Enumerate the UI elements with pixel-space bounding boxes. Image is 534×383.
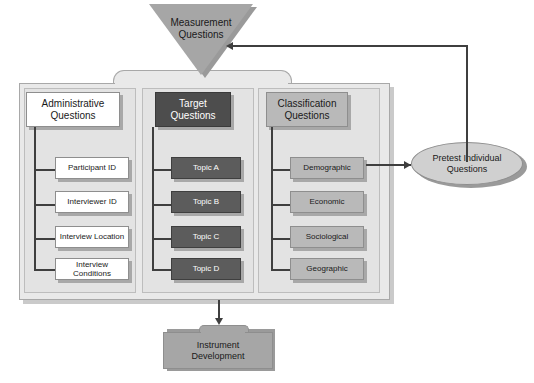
item-interview-location[interactable]: Interview Location	[55, 226, 129, 248]
item-interviewer-id-label: Interviewer ID	[67, 197, 116, 206]
header-classification-line1: Classification	[278, 98, 337, 109]
tree-branch-target-4	[152, 269, 172, 271]
header-classification-line2: Questions	[284, 110, 329, 121]
item-geographic[interactable]: Geographic	[290, 258, 364, 280]
item-sociological-label: Sociological	[306, 232, 349, 241]
diagram-canvas: Administrative Questions Participant ID …	[0, 0, 534, 383]
tree-branch-target-1	[152, 169, 172, 171]
item-topic-d-label: Topic D	[193, 264, 220, 273]
item-economic-label: Economic	[309, 197, 344, 206]
item-topic-c-label: Topic C	[193, 232, 220, 241]
item-sociological[interactable]: Sociological	[290, 226, 364, 248]
tree-trunk-target	[152, 127, 154, 270]
item-demographic[interactable]: Demographic	[290, 157, 364, 179]
item-topic-b-label: Topic B	[193, 197, 219, 206]
instrument-development-node[interactable]: Instrument Development	[163, 325, 275, 371]
item-interview-location-label: Interview Location	[60, 232, 124, 241]
instrument-folder-body: Instrument Development	[163, 332, 273, 369]
header-target-questions[interactable]: Target Questions	[155, 92, 231, 127]
header-administrative-line1: Administrative	[42, 98, 105, 109]
item-topic-d[interactable]: Topic D	[171, 258, 241, 280]
tree-branch-target-3	[152, 238, 172, 240]
measurement-questions-node[interactable]: Measurement Questions	[149, 4, 257, 78]
tree-trunk-administrative	[34, 127, 36, 270]
tree-branch-class-3	[271, 238, 291, 240]
connector-pretest-up	[466, 45, 468, 162]
item-topic-a-label: Topic A	[193, 163, 219, 172]
tree-branch-class-2	[271, 204, 291, 206]
tree-branch-target-2	[152, 204, 172, 206]
item-participant-id[interactable]: Participant ID	[55, 157, 129, 179]
header-administrative-line2: Questions	[50, 110, 95, 121]
item-geographic-label: Geographic	[306, 264, 347, 273]
item-economic[interactable]: Economic	[290, 191, 364, 213]
item-demographic-label: Demographic	[303, 163, 351, 172]
instrument-line2: Development	[191, 351, 244, 361]
measurement-triangle-shape	[149, 4, 253, 75]
header-target-line1: Target	[179, 98, 207, 109]
item-topic-a[interactable]: Topic A	[171, 157, 241, 179]
arrowhead-to-instrument	[215, 318, 223, 325]
item-topic-b[interactable]: Topic B	[171, 191, 241, 213]
folder-tab-seam	[115, 82, 288, 86]
connector-pretest-to-measurement	[232, 45, 467, 47]
item-interviewer-id[interactable]: Interviewer ID	[55, 191, 129, 213]
tree-branch-admin-3	[34, 238, 56, 240]
tree-branch-class-1	[271, 169, 291, 171]
arrowhead-to-measurement	[226, 42, 233, 50]
header-target-line2: Questions	[170, 110, 215, 121]
tree-branch-admin-1	[34, 169, 56, 171]
header-classification-questions[interactable]: Classification Questions	[266, 92, 348, 127]
instrument-line1: Instrument	[197, 340, 240, 350]
instrument-label: Instrument Development	[191, 340, 244, 362]
tree-trunk-classification	[271, 127, 273, 270]
pretest-line2: Questions	[447, 164, 488, 174]
item-participant-id-label: Participant ID	[68, 163, 116, 172]
item-interview-conditions[interactable]: Interview Conditions	[55, 258, 129, 280]
item-topic-c[interactable]: Topic C	[171, 226, 241, 248]
header-administrative-questions[interactable]: Administrative Questions	[26, 92, 120, 127]
tree-branch-class-4	[271, 269, 291, 271]
tree-branch-admin-4	[34, 269, 56, 271]
item-interview-conditions-label: Interview Conditions	[57, 260, 127, 279]
arrowhead-to-pretest	[404, 161, 411, 169]
instrument-folder-seam	[201, 331, 245, 334]
tree-branch-admin-2	[34, 204, 56, 206]
pretest-individual-questions-node[interactable]: Pretest Individual Questions	[411, 142, 527, 188]
